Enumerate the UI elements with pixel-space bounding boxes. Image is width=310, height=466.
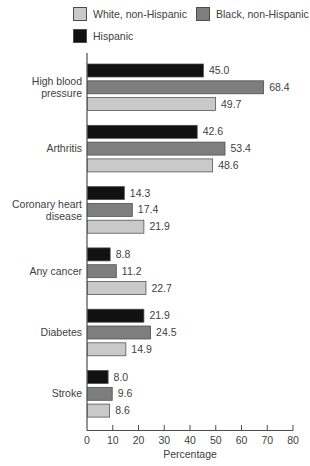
bar-hispanic [88, 309, 144, 322]
legend-item-white-non-hispanic: White, non-Hispanic [73, 7, 187, 21]
bar-white-non-hispanic [88, 343, 126, 356]
bar-value-label: 21.9 [149, 309, 170, 321]
x-tick-label: 60 [236, 434, 248, 446]
bar-value-label: 22.7 [151, 282, 172, 294]
legend-item-hispanic: Hispanic [73, 29, 133, 43]
bar-black-non-hispanic [88, 203, 133, 216]
legend-label-black-non-hispanic: Black, non-Hispanic [216, 8, 309, 20]
x-tick-label: 50 [210, 434, 222, 446]
bar-white-non-hispanic [88, 220, 144, 233]
x-tick-label: 80 [287, 434, 299, 446]
bar-hispanic [88, 371, 109, 384]
bar-white-non-hispanic [88, 98, 216, 111]
x-tick-label: 30 [158, 434, 170, 446]
legend-label-white-non-hispanic: White, non-Hispanic [93, 8, 187, 20]
category-label: High blood [32, 75, 82, 87]
category-label: Arthritis [46, 142, 82, 154]
bar-value-label: 68.4 [269, 81, 290, 93]
bar-hispanic [88, 64, 204, 77]
bar-value-label: 24.5 [156, 326, 177, 338]
bar-value-label: 53.4 [231, 142, 252, 154]
bar-value-label: 8.6 [115, 404, 130, 416]
category-label: disease [46, 210, 82, 222]
x-tick-label: 40 [184, 434, 196, 446]
legend-label-hispanic: Hispanic [93, 30, 133, 42]
legend-row-2: Hispanic [73, 29, 309, 43]
category-label: Diabetes [41, 326, 82, 338]
category-label: pressure [41, 87, 82, 99]
bar-value-label: 8.8 [116, 248, 131, 260]
bar-chart: 01020304050607080Percentage45.068.449.7H… [0, 0, 310, 466]
legend-swatch-black-icon [196, 7, 210, 21]
x-tick-label: 70 [261, 434, 273, 446]
x-tick-label: 10 [107, 434, 119, 446]
chart-legend: White, non-Hispanic Black, non-Hispanic … [73, 7, 309, 51]
bar-hispanic [88, 248, 111, 261]
bar-black-non-hispanic [88, 265, 117, 278]
bar-black-non-hispanic [88, 387, 113, 400]
bar-value-label: 17.4 [138, 203, 159, 215]
bar-white-non-hispanic [88, 282, 146, 295]
legend-swatch-hispanic-icon [73, 29, 87, 43]
bar-value-label: 8.0 [114, 371, 129, 383]
bar-value-label: 21.9 [149, 220, 170, 232]
legend-swatch-white-icon [73, 7, 87, 21]
bar-value-label: 9.6 [118, 387, 133, 399]
legend-row-1: White, non-Hispanic Black, non-Hispanic [73, 7, 309, 21]
x-axis-title: Percentage [163, 448, 217, 460]
bar-black-non-hispanic [88, 142, 226, 155]
x-tick-label: 20 [133, 434, 145, 446]
bar-white-non-hispanic [88, 404, 110, 417]
bar-value-label: 14.3 [130, 187, 151, 199]
bar-value-label: 11.2 [122, 265, 142, 277]
bar-black-non-hispanic [88, 81, 264, 94]
bar-hispanic [88, 187, 125, 200]
x-tick-label: 0 [84, 434, 90, 446]
bar-value-label: 48.6 [218, 159, 239, 171]
legend-item-black-non-hispanic: Black, non-Hispanic [196, 7, 309, 21]
chart-figure: White, non-Hispanic Black, non-Hispanic … [0, 0, 310, 466]
category-label: Stroke [52, 387, 83, 399]
bar-value-label: 45.0 [209, 64, 230, 76]
category-label: Coronary heart [12, 198, 82, 210]
bar-black-non-hispanic [88, 326, 151, 339]
bar-white-non-hispanic [88, 159, 213, 172]
bar-value-label: 49.7 [221, 98, 242, 110]
bar-hispanic [88, 125, 198, 138]
bar-value-label: 14.9 [131, 343, 152, 355]
category-label: Any cancer [29, 265, 82, 277]
bar-value-label: 42.6 [203, 125, 224, 137]
